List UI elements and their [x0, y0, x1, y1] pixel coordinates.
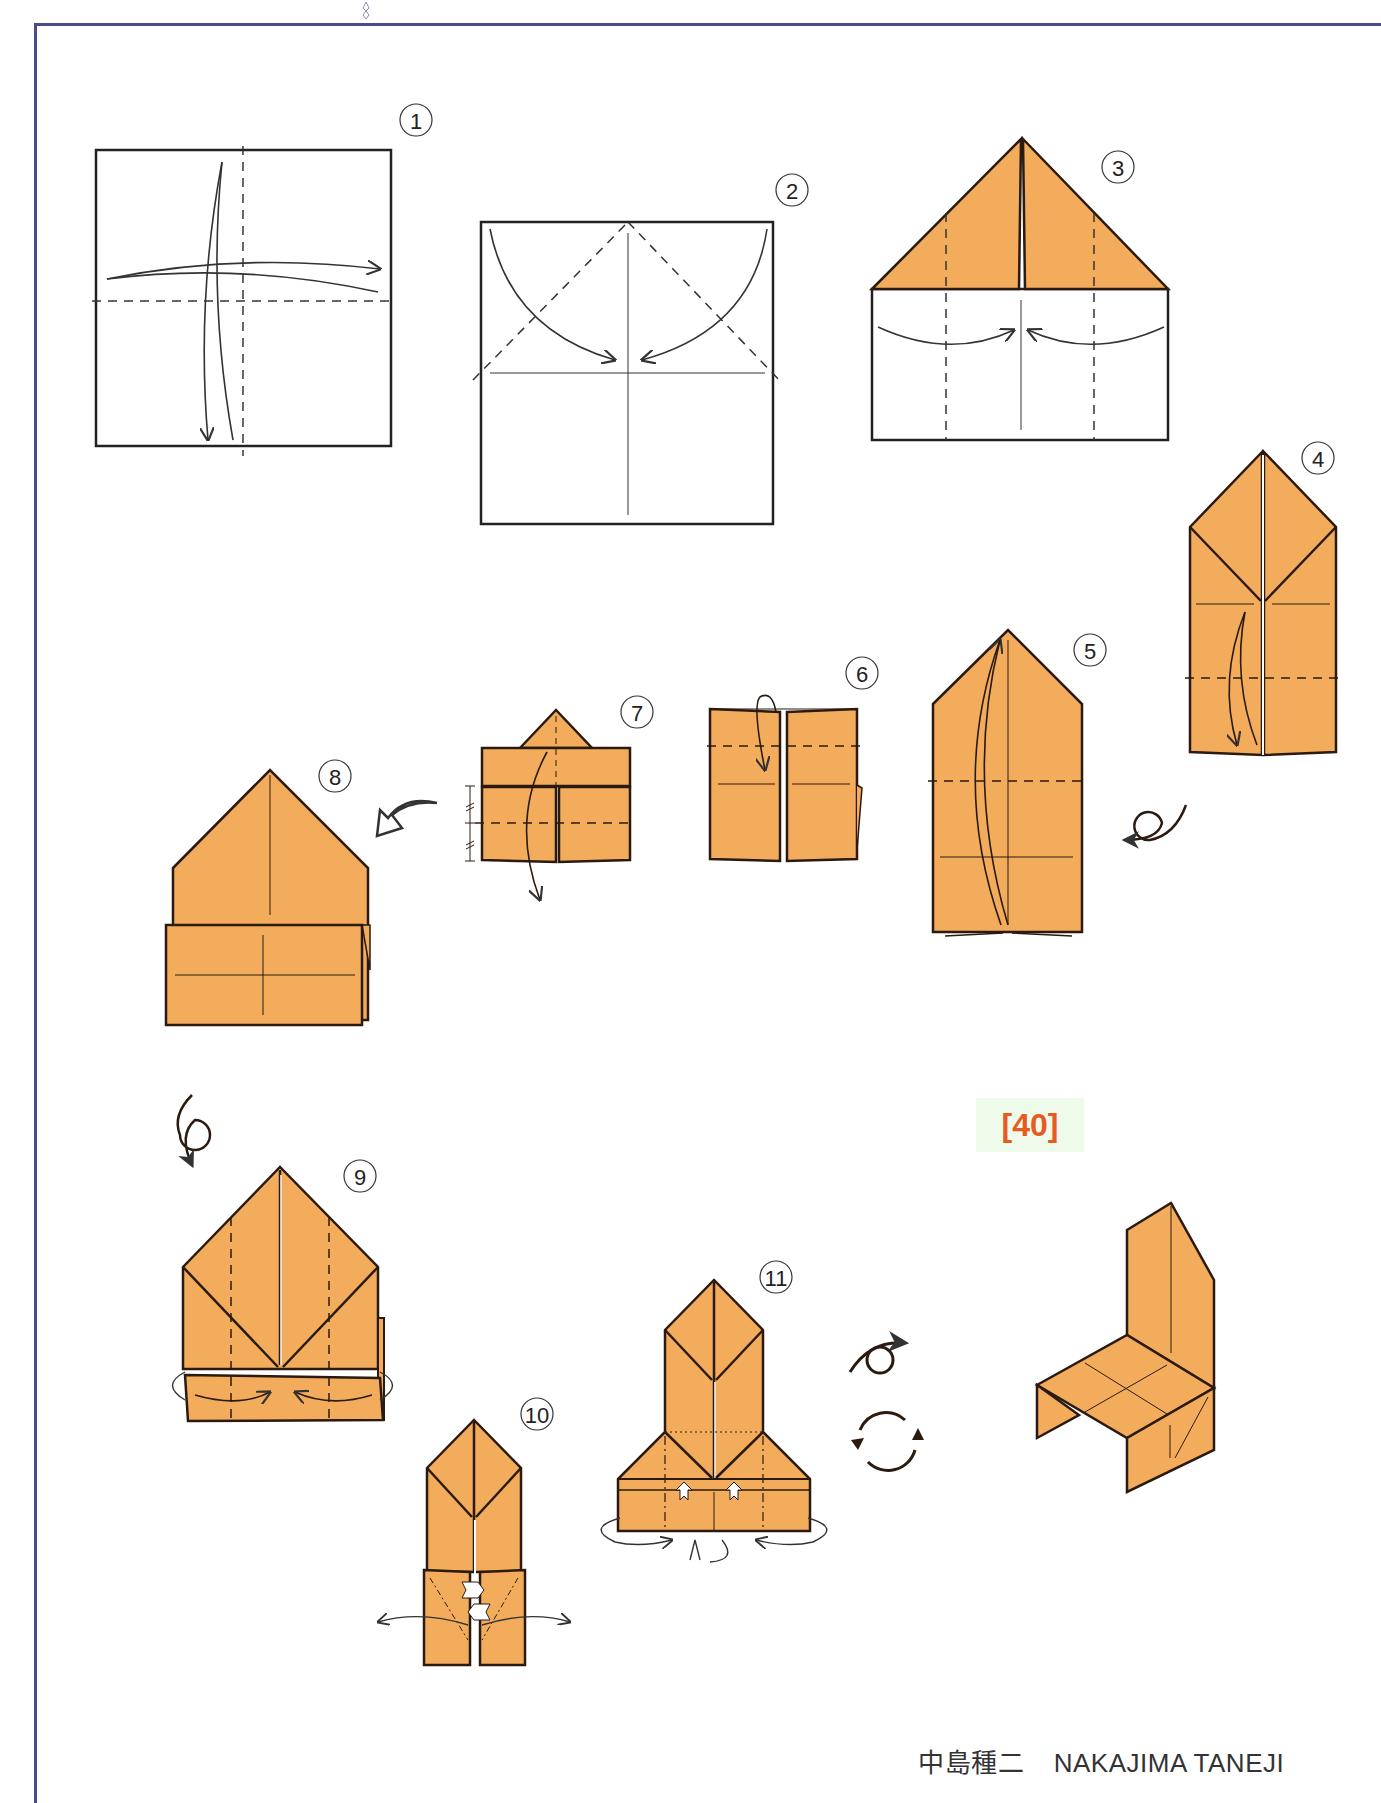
finished-chair	[1037, 1203, 1214, 1492]
turn-over-icon	[850, 1343, 905, 1373]
step-9-label: 9	[354, 1165, 366, 1190]
step-11-label: 11	[765, 1266, 788, 1291]
step-9: 9	[173, 1160, 393, 1421]
author-credit: 中島種二 NAKAJIMA TANEJI	[918, 1742, 1284, 1779]
step-1-label: 1	[410, 109, 422, 134]
step-5-label: 5	[1084, 639, 1096, 664]
direction-arrow-icon	[377, 801, 437, 836]
step-2-label: 2	[786, 179, 798, 204]
origami-diagram: 1 2 3 4	[0, 0, 1381, 1803]
step-6: 6	[707, 657, 878, 861]
author-name-romaji: NAKAJIMA TANEJI	[1054, 1748, 1284, 1778]
step-3: 3	[872, 139, 1168, 440]
step-3-label: 3	[1112, 156, 1124, 181]
step-7-label: 7	[631, 701, 643, 726]
step-11: 11	[601, 1261, 827, 1562]
turn-over-icon	[178, 1095, 210, 1165]
step-7: 7	[465, 696, 653, 900]
step-1: 1	[92, 104, 432, 456]
step-8-label: 8	[329, 765, 341, 790]
step-2: 2	[473, 174, 808, 524]
step-10-label: 10	[525, 1403, 549, 1428]
step-10: 10	[378, 1398, 570, 1665]
step-5: 5	[928, 630, 1106, 936]
page-number-badge: [40]	[976, 1098, 1084, 1152]
rotate-icon	[851, 1413, 924, 1471]
step-8: 8	[166, 760, 370, 1025]
author-name-japanese: 中島種二	[918, 1748, 1024, 1778]
step-4-label: 4	[1312, 447, 1324, 472]
turn-over-icon	[1125, 805, 1186, 840]
step-6-label: 6	[856, 662, 868, 687]
step-4: 4	[1185, 442, 1340, 755]
